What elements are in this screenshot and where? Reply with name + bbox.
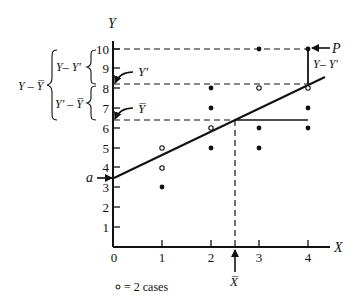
y-tick-7: 7 [103, 101, 110, 116]
y-axis-label: Y [108, 16, 118, 31]
residual-label: Y– Y′ [313, 57, 338, 71]
y-tick-3: 3 [103, 180, 110, 195]
intercept-label: a [86, 170, 93, 185]
p-label: P [331, 41, 341, 56]
y-tick-9: 9 [103, 61, 110, 76]
regression-diagram: 1 2 3 4 5 6 7 8 9 10 0 1 2 3 4 Y X [0, 0, 356, 302]
point-2-7 [209, 106, 214, 111]
y-tick-labels: 1 2 3 4 5 6 7 8 9 10 [96, 42, 110, 235]
x-tick-3: 3 [256, 250, 263, 265]
open-points [160, 86, 310, 170]
x-tick-2: 2 [208, 250, 215, 265]
point-1-3 [160, 185, 165, 190]
legend-text: = 2 cases [124, 280, 168, 294]
point-4-7 [306, 106, 311, 111]
y-tick-2: 2 [103, 200, 110, 215]
x-tick-4: 4 [305, 250, 312, 265]
point-4-10 [306, 47, 311, 52]
filled-points [160, 47, 311, 190]
brace-yprime-ybar [87, 86, 96, 120]
brace-label-yprime-ybar: Y′ – Y̅ [55, 97, 84, 111]
brace-label-y-yprime: Y– Y′ [56, 60, 81, 74]
regression-line [114, 77, 325, 178]
point-2-8 [209, 86, 214, 91]
y-tick-4: 4 [103, 160, 110, 175]
ybar-arrow [115, 108, 133, 119]
y-tick-10: 10 [96, 42, 109, 57]
point-3-5 [257, 146, 262, 151]
x-tick-0: 0 [111, 250, 118, 265]
x-axis-label: X [333, 240, 343, 255]
y-tick-6: 6 [103, 121, 110, 136]
point-2-6 [209, 126, 213, 130]
point-3-8 [257, 86, 261, 90]
x-tick-1: 1 [159, 250, 166, 265]
point-4-6 [306, 126, 311, 131]
point-1-4 [160, 166, 164, 170]
point-4-8 [306, 86, 310, 90]
legend-open-marker [116, 285, 120, 289]
point-3-6 [257, 126, 262, 131]
xbar-label: X̅ [229, 274, 239, 289]
x-tick-labels: 0 1 2 3 4 [111, 250, 312, 265]
brace-y-yprime [87, 50, 96, 84]
yprime-label: Y′ [138, 64, 148, 79]
yprime-arrow [115, 72, 133, 83]
point-3-10 [257, 47, 262, 52]
ybar-label: Y̅ [138, 101, 147, 116]
brace-label-y-ybar: Y – Y̅ [18, 79, 45, 93]
y-tick-1: 1 [103, 220, 110, 235]
y-ticks [113, 49, 120, 227]
point-1-5 [160, 146, 164, 150]
point-2-5 [209, 146, 214, 151]
y-tick-5: 5 [103, 141, 110, 156]
y-tick-8: 8 [103, 81, 110, 96]
